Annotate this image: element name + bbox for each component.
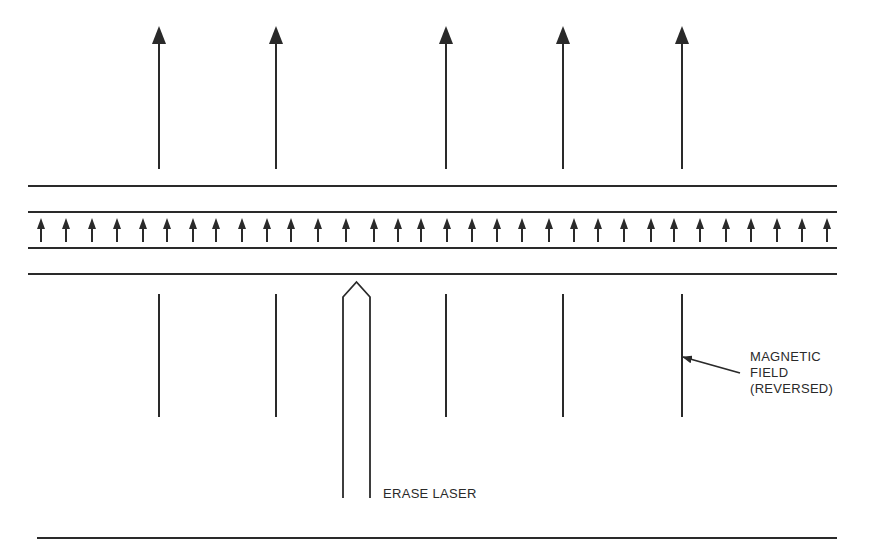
magnetic-field-label: MAGNETIC FIELD (REVERSED) — [750, 349, 833, 397]
domain-up-arrow-icon — [823, 218, 831, 242]
domain-up-arrow-icon — [238, 218, 246, 242]
domain-up-arrow-icon — [570, 218, 578, 242]
domain-up-arrow-icon — [62, 218, 70, 242]
erase-laser-beam — [343, 282, 370, 498]
domain-up-arrow-icon — [287, 218, 295, 242]
up-arrow-icon — [675, 26, 689, 169]
magnetic-field-callout-arrow — [683, 357, 740, 373]
domain-up-arrow-icon — [37, 218, 45, 242]
domain-up-arrow-icon — [594, 218, 602, 242]
erase-laser-label: ERASE LASER — [383, 486, 477, 502]
magnetic-domain-arrows — [37, 218, 831, 242]
domain-up-arrow-icon — [189, 218, 197, 242]
domain-up-arrow-icon — [518, 218, 526, 242]
domain-up-arrow-icon — [493, 218, 501, 242]
domain-up-arrow-icon — [773, 218, 781, 242]
magnetic-field-label-line-3: (REVERSED) — [750, 381, 833, 397]
domain-up-arrow-icon — [314, 218, 322, 242]
domain-up-arrow-icon — [370, 218, 378, 242]
domain-up-arrow-icon — [163, 218, 171, 242]
reversed-field-lines — [159, 294, 682, 417]
domain-up-arrow-icon — [670, 218, 678, 242]
domain-up-arrow-icon — [342, 218, 350, 242]
up-arrow-icon — [152, 26, 166, 169]
external-field-arrows — [152, 26, 689, 169]
domain-up-arrow-icon — [212, 218, 220, 242]
domain-up-arrow-icon — [798, 218, 806, 242]
up-arrow-icon — [269, 26, 283, 169]
medium-layers — [28, 186, 837, 274]
domain-up-arrow-icon — [747, 218, 755, 242]
up-arrow-icon — [556, 26, 570, 169]
domain-up-arrow-icon — [696, 218, 704, 242]
domain-up-arrow-icon — [394, 218, 402, 242]
domain-up-arrow-icon — [468, 218, 476, 242]
domain-up-arrow-icon — [139, 218, 147, 242]
domain-up-arrow-icon — [417, 218, 425, 242]
laser-beam-outline — [343, 282, 370, 498]
callout-arrow-icon — [683, 357, 740, 373]
domain-up-arrow-icon — [443, 218, 451, 242]
domain-up-arrow-icon — [647, 218, 655, 242]
domain-up-arrow-icon — [113, 218, 121, 242]
domain-up-arrow-icon — [88, 218, 96, 242]
domain-up-arrow-icon — [722, 218, 730, 242]
magnetic-field-label-line-2: FIELD — [750, 365, 833, 381]
domain-up-arrow-icon — [620, 218, 628, 242]
domain-up-arrow-icon — [263, 218, 271, 242]
magneto-optical-erase-diagram — [0, 0, 879, 551]
magnetic-field-label-line-1: MAGNETIC — [750, 349, 833, 365]
domain-up-arrow-icon — [545, 218, 553, 242]
up-arrow-icon — [439, 26, 453, 169]
